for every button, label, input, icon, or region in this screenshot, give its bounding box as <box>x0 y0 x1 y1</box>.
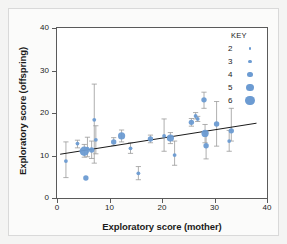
data-point <box>203 143 208 148</box>
data-point <box>173 153 177 157</box>
data-point <box>162 134 166 138</box>
data-point <box>189 120 194 125</box>
legend-marker-icon <box>249 47 251 49</box>
data-point <box>94 138 98 142</box>
x-tick-label-0: 0 <box>46 203 68 212</box>
data-point <box>214 121 219 126</box>
legend-item-2: 2 <box>228 42 268 55</box>
legend-marker-icon <box>245 96 254 105</box>
data-point <box>148 136 153 141</box>
x-tick-mark-30 <box>215 199 216 203</box>
data-point <box>201 97 206 102</box>
x-tick-label-40: 40 <box>256 203 278 212</box>
legend-rows: 23456 <box>228 42 268 107</box>
x-tick-mark-20 <box>162 199 163 203</box>
data-point <box>229 128 234 133</box>
legend-item-label: 2 <box>228 44 239 53</box>
y-tick-label-30: 30 <box>27 66 49 75</box>
data-point <box>118 132 125 139</box>
legend-marker-wrap <box>239 47 261 49</box>
data-point <box>111 139 116 144</box>
data-point <box>64 159 68 163</box>
y-tick-label-0: 0 <box>27 193 49 202</box>
legend: KEY 23456 <box>228 31 268 107</box>
x-tick-label-10: 10 <box>99 203 121 212</box>
y-tick-label-10: 10 <box>27 151 49 160</box>
data-point <box>86 147 90 151</box>
data-point <box>89 147 94 152</box>
legend-item-label: 3 <box>228 57 239 66</box>
data-point <box>129 146 133 150</box>
legend-marker-wrap <box>239 72 261 77</box>
data-point <box>76 142 80 146</box>
data-point <box>227 139 231 143</box>
legend-marker-wrap <box>239 96 261 105</box>
x-tick-label-30: 30 <box>204 203 226 212</box>
x-tick-mark-0 <box>57 199 58 203</box>
legend-item-6: 6 <box>228 94 268 107</box>
data-point <box>92 118 96 122</box>
x-tick-mark-40 <box>267 199 268 203</box>
legend-item-label: 4 <box>228 70 239 79</box>
legend-marker-icon <box>248 60 252 64</box>
legend-item-5: 5 <box>228 81 268 94</box>
legend-item-label: 6 <box>228 96 239 105</box>
error-bar <box>172 141 177 165</box>
data-point <box>136 171 140 175</box>
legend-item-4: 4 <box>228 68 268 81</box>
x-tick-label-20: 20 <box>151 203 173 212</box>
legend-title: KEY <box>231 31 268 40</box>
data-point <box>83 175 88 180</box>
y-tick-label-20: 20 <box>27 108 49 117</box>
x-tick-mark-10 <box>110 199 111 203</box>
legend-marker-wrap <box>239 84 261 91</box>
legend-marker-icon <box>247 72 252 77</box>
legend-marker-wrap <box>239 60 261 64</box>
legend-marker-icon <box>246 84 253 91</box>
data-point <box>201 130 208 137</box>
figure-container: Exploratory score (offspring) Explorator… <box>0 0 287 244</box>
data-point <box>167 134 174 141</box>
x-axis-title: Exploratory score (mother) <box>56 221 268 232</box>
y-tick-label-40: 40 <box>27 23 49 32</box>
legend-item-label: 5 <box>228 83 239 92</box>
legend-item-3: 3 <box>228 55 268 68</box>
data-point <box>196 117 200 121</box>
